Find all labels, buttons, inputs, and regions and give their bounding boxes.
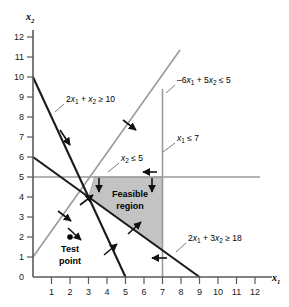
x-tick-label-2: 2 [67,287,72,297]
linear-programming-figure: 12 11 10 9 8 7 6 5 4 3 2 1 0 1 2 3 [0,0,289,307]
y-tick-label-7: 7 [19,132,24,142]
y-tick-label-8: 8 [19,112,24,122]
y-tick-label-5: 5 [19,172,24,182]
x-tick-label-3: 3 [86,287,91,297]
y-tick-label-1: 1 [19,252,24,262]
x-tick-label-6: 6 [141,287,146,297]
constraint-label-neg6x1-5x2-le-5: –6x1 + 5x2 ≤ 5 [177,75,231,86]
y-tick-label-4: 4 [19,192,24,202]
x-tick-label-7: 7 [160,287,165,297]
feasible-region-plot: 12 11 10 9 8 7 6 5 4 3 2 1 0 1 2 3 [0,0,289,307]
x-tick-label-8: 8 [178,287,183,297]
x-tick-label-5: 5 [123,287,128,297]
x-tick-label-9: 9 [197,287,202,297]
y-tick-label-0: 0 [19,272,24,282]
y-tick-label-2: 2 [19,232,24,242]
x-tick-label-1: 1 [49,287,54,297]
x-tick-label-4: 4 [104,287,109,297]
constraint-label-x2-le-5: x2 ≤ 5 [120,153,143,164]
constraint-label-x1-le-7: x1 ≤ 7 [176,133,199,144]
plot-background [0,0,289,307]
y-tick-label-3: 3 [19,212,24,222]
y-tick-label-6: 6 [19,152,24,162]
test-point-marker [67,234,73,240]
x-tick-label-11: 11 [232,287,241,297]
y-tick-label-9: 9 [19,92,24,102]
x-tick-label-12: 12 [250,287,260,297]
feasible-region-label-line2: region [116,201,144,211]
test-point-label-line2: point [59,256,81,266]
constraint-label-2x1-3x2-ge-18: 2x1 + 3x2 ≥ 18 [188,233,242,244]
y-tick-label-11: 11 [15,52,24,62]
test-point-label-line1: Test [61,244,79,254]
y-tick-label-12: 12 [14,32,24,42]
y-tick-label-10: 10 [14,72,24,82]
constraint-label-2x1-x2-ge-10: 2x1 + x2 ≥ 10 [66,94,115,105]
x-tick-label-10: 10 [213,287,223,297]
feasible-region-label-line1: Feasible [112,189,148,199]
